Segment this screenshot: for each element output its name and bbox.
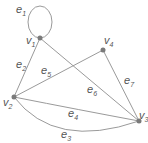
label-e1: e1 <box>16 3 26 17</box>
graph-svg: v1 v2 v3 v4 e1 e2 e3 e4 e5 e6 e7 <box>0 0 148 143</box>
label-v2: v2 <box>3 96 13 110</box>
vertex-v2 <box>12 95 17 100</box>
label-v4: v4 <box>104 34 114 48</box>
label-v3: v3 <box>139 109 148 123</box>
graph-diagram: v1 v2 v3 v4 e1 e2 e3 e4 e5 e6 e7 <box>0 0 148 143</box>
vertex-v4 <box>101 48 106 53</box>
vertex-v1 <box>38 36 43 41</box>
edge-e1-loop <box>28 6 52 38</box>
label-e5: e5 <box>41 64 51 78</box>
label-e7: e7 <box>124 74 135 88</box>
label-e2: e2 <box>16 58 26 72</box>
